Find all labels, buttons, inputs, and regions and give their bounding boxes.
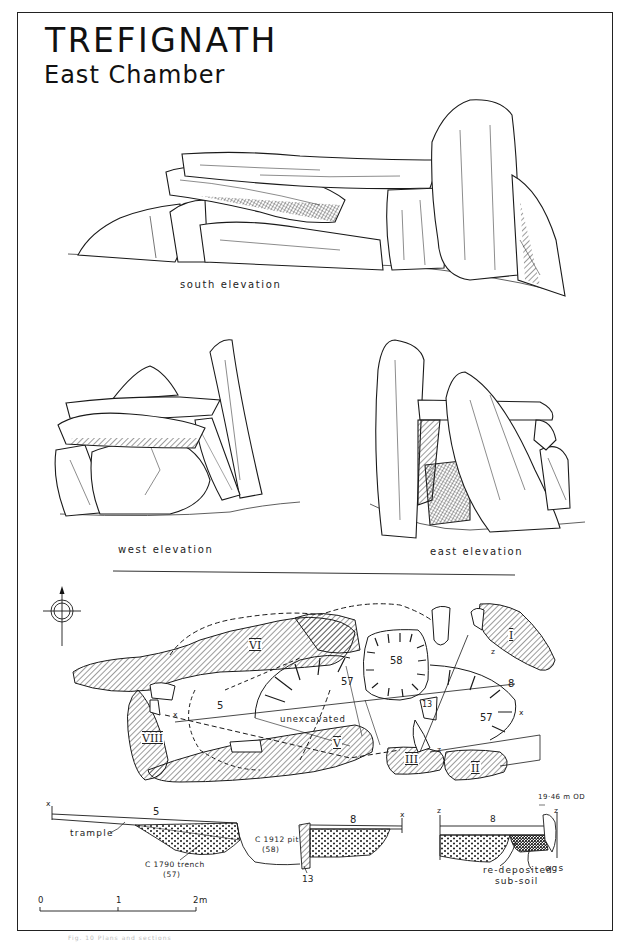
scale-tick-0: 0 bbox=[38, 895, 44, 905]
scale-tick-1: 1 bbox=[116, 895, 122, 905]
scale-tick-2m: 2m bbox=[193, 895, 208, 905]
figure-caption: Fig. 10 Plans and sections bbox=[68, 934, 172, 941]
scale-bar bbox=[0, 0, 618, 942]
